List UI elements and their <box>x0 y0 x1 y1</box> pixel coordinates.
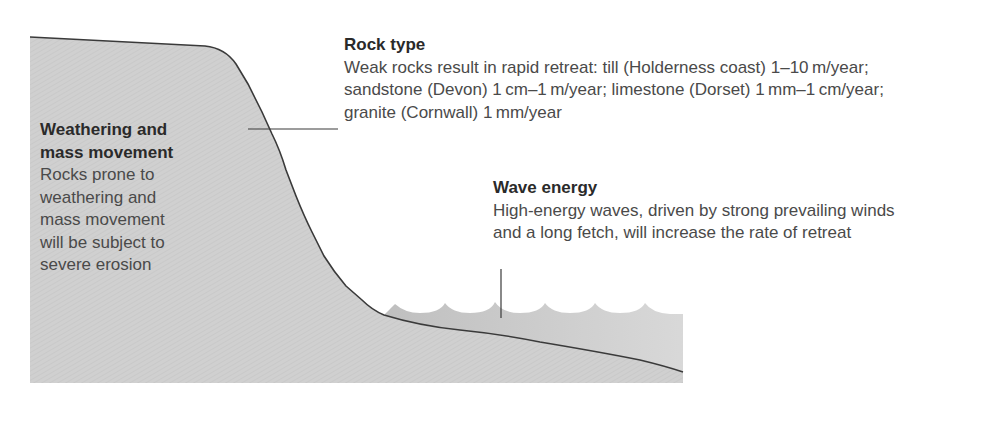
weathering-text-line: Rocks prone to <box>40 164 173 187</box>
wave-energy-title: Wave energy <box>493 177 895 200</box>
rock-type-label: Rock type Weak rocks result in rapid ret… <box>344 34 884 124</box>
wave-energy-text-line: and a long fetch, will increase the rate… <box>493 222 895 245</box>
weathering-text-line: mass movement <box>40 209 173 232</box>
weathering-label: Weathering and mass movement Rocks prone… <box>40 119 173 277</box>
weathering-text-line: will be subject to <box>40 232 173 255</box>
wave-energy-text-line: High-energy waves, driven by strong prev… <box>493 200 895 223</box>
rock-type-text-line: granite (Cornwall) 1 mm/year <box>344 102 884 125</box>
weathering-text-line: weathering and <box>40 187 173 210</box>
rock-type-title: Rock type <box>344 34 884 57</box>
weathering-title: mass movement <box>40 142 173 165</box>
weathering-title: Weathering and <box>40 119 173 142</box>
weathering-text-line: severe erosion <box>40 254 173 277</box>
wave-energy-label: Wave energy High-energy waves, driven by… <box>493 177 895 245</box>
rock-type-text-line: Weak rocks result in rapid retreat: till… <box>344 57 884 80</box>
rock-type-text-line: sandstone (Devon) 1 cm–1 m/year; limesto… <box>344 79 884 102</box>
